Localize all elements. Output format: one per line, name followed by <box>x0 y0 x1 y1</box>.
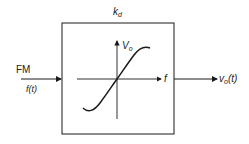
gain-label: kd <box>113 7 122 18</box>
y-axis-label-subscript: o <box>129 45 133 52</box>
y-axis-label-main: V <box>122 40 129 51</box>
output-signal: vo(t) <box>219 74 237 85</box>
gain-label-subscript: d <box>118 11 122 18</box>
x-axis-label: f <box>164 74 167 84</box>
diagram-graphics <box>0 0 249 144</box>
output-signal-arg: (t) <box>228 73 237 84</box>
y-axis-label: Vo <box>122 41 133 52</box>
frequency-discriminator-diagram: kd FM f(t) vo(t) Vo f <box>0 0 249 144</box>
input-name: FM <box>16 65 30 75</box>
input-signal: f(t) <box>26 85 37 94</box>
